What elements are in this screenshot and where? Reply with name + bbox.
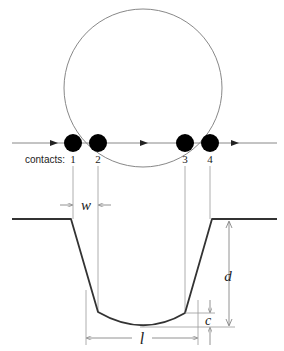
d-dimension: d: [224, 221, 232, 326]
arrow-right-icon: [231, 140, 239, 146]
contact-ball-3: [176, 134, 194, 152]
l-dimension: l: [86, 290, 198, 347]
contact-label-4: 4: [207, 153, 213, 165]
contact-ball-2: [89, 134, 107, 152]
trench-contact-diagram: contacts: 1 2 3 4 w d c l: [0, 0, 284, 351]
contacts-label: contacts:: [25, 154, 65, 165]
contact-ball-1: [64, 134, 82, 152]
contact-label-3: 3: [182, 153, 188, 165]
l-label: l: [140, 330, 145, 347]
arrow-right-icon: [140, 140, 148, 146]
contact-label-2: 2: [95, 153, 101, 165]
c-label: c: [205, 313, 212, 328]
arrow-right-icon: [50, 140, 58, 146]
trench-profile: [12, 219, 277, 325]
w-label: w: [81, 197, 91, 213]
contact-label-1: 1: [70, 153, 76, 165]
path-line: [12, 140, 277, 146]
contact-guides: [73, 166, 210, 313]
d-label: d: [224, 268, 232, 284]
w-dimension: w: [60, 197, 111, 213]
contact-ball-4: [201, 134, 219, 152]
